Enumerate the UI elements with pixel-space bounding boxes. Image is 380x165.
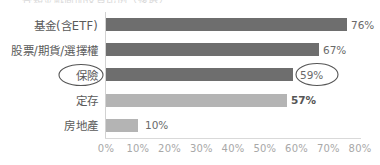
value-label: 67% [323,37,346,62]
bar-segment [106,68,293,81]
value-label-insurance: 59% [300,62,323,87]
bar-segment [106,43,319,56]
value-label: 10% [145,113,168,138]
x-tick-label: 80% [340,143,380,154]
category-label: 股票/期貨/選擇權 [11,37,98,62]
category-label: 基金(含ETF) [34,12,98,37]
bar-segment [106,94,287,107]
x-axis-line [105,138,361,139]
bar-chart: 各類金融商品投資比例（複選） 基金(含ETF) 76% 股票/期貨/選擇權 67… [0,0,380,165]
bar-row: 股票/期貨/選擇權 67% [0,37,380,62]
bar-row: 房地產 10% [0,113,380,138]
x-axis-tick-labels: 0% 10% 20% 30% 40% 50% 60% 70% 80% [0,143,380,161]
bar-segment [106,18,347,31]
bar-segment [106,119,138,132]
clipped-chart-title: 各類金融商品投資比例（複選） [22,0,342,3]
category-label: 定存 [76,88,98,113]
bar-row: 定存 57% [0,88,380,113]
bar-row: 基金(含ETF) 76% [0,12,380,37]
category-label-insurance: 保險 [76,62,98,87]
category-label: 房地產 [64,113,98,138]
bar-row: 保險 59% [0,62,380,87]
value-label: 76% [351,12,374,37]
value-label: 57% [291,88,316,113]
